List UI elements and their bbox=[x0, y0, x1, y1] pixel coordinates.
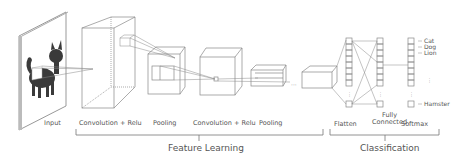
ellipsis: ··· bbox=[291, 81, 297, 88]
conv2-to-pool2-lines bbox=[218, 78, 290, 82]
group-label-feature-learning: Feature Learning bbox=[168, 143, 244, 153]
conv1-volume bbox=[82, 17, 135, 108]
label-softmax: Softmax bbox=[401, 120, 428, 128]
class-tick-lines bbox=[418, 41, 422, 104]
conv2-volume bbox=[200, 48, 242, 95]
flatten-ellipsis: ⋮ bbox=[347, 91, 352, 97]
label-pool2: Pooling bbox=[259, 119, 283, 127]
group-label-classification: Classification bbox=[360, 143, 420, 153]
label-pool1: Pooling bbox=[153, 119, 177, 127]
classification-bracket bbox=[330, 129, 439, 141]
fc-ellipsis: ⋮ bbox=[378, 91, 383, 97]
class-ellipsis: ⋮ bbox=[427, 77, 432, 83]
label-conv2: Convolution + Relu bbox=[193, 119, 256, 127]
conv1-filter bbox=[120, 35, 134, 46]
pool1-to-conv2-lines bbox=[160, 66, 215, 80]
cnn-diagram-canvas: ··· ⋮ bbox=[0, 0, 451, 163]
flatten-to-fc-lines bbox=[352, 41, 377, 104]
final-feature-volume bbox=[302, 66, 337, 88]
pool2-volume bbox=[251, 65, 286, 86]
label-input: Input bbox=[44, 119, 61, 127]
conv1-to-pool1-lines bbox=[130, 35, 175, 58]
label-flatten: Flatten bbox=[334, 120, 357, 128]
softmax-ellipsis: ⋮ bbox=[409, 91, 414, 97]
input-image-panel bbox=[19, 12, 68, 130]
final-to-flatten-lines bbox=[332, 40, 346, 104]
feature-learning-bracket bbox=[76, 129, 323, 141]
class-label-lion: Lion bbox=[424, 49, 436, 56]
class-label-hamster: Hamster bbox=[424, 100, 450, 107]
label-conv1: Convolution + Relu bbox=[79, 119, 142, 127]
